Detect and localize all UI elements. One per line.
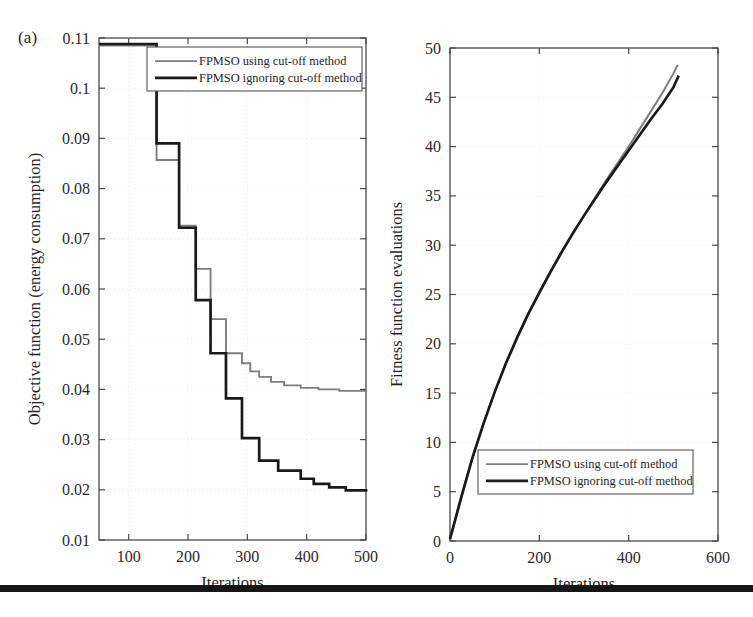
bottom-rule-divider <box>0 585 753 592</box>
y-tick-label: 40 <box>425 138 441 155</box>
x-tick-label: 300 <box>235 548 259 565</box>
y-tick-label: 10 <box>425 434 441 451</box>
y-tick-label: 0.01 <box>62 532 90 549</box>
x-tick-label: 200 <box>176 548 200 565</box>
y-axis-title: Fitness function evaluations <box>387 202 406 387</box>
x-tick-label: 400 <box>617 549 641 566</box>
y-tick-label: 45 <box>425 89 441 106</box>
y-tick-label: 0 <box>433 533 441 550</box>
y-tick-label: 0.06 <box>62 281 90 298</box>
legend-item-using-cutoff-label: FPMSO using cut-off method <box>199 54 347 68</box>
y-tick-label: 0.03 <box>62 431 90 448</box>
y-tick-label: 30 <box>425 237 441 254</box>
x-tick-label: 200 <box>527 549 551 566</box>
y-tick-label: 0.07 <box>62 230 90 247</box>
x-tick-label: 0 <box>446 549 454 566</box>
figure-container: (a) 0.010.020.030.040.050.060.070.080.09… <box>0 0 753 617</box>
y-tick-label: 5 <box>433 483 441 500</box>
y-tick-label: 15 <box>425 385 441 402</box>
y-tick-label: 35 <box>425 187 441 204</box>
legend: FPMSO using cut-off methodFPMSO ignoring… <box>147 47 362 91</box>
y-tick-label: 0.08 <box>62 180 90 197</box>
legend: FPMSO using cut-off methodFPMSO ignoring… <box>478 450 693 494</box>
y-tick-label: 0.1 <box>70 80 90 97</box>
y-tick-label: 0.04 <box>62 381 90 398</box>
x-tick-label: 100 <box>117 548 141 565</box>
objective-function-chart: 0.010.020.030.040.050.060.070.080.090.10… <box>0 0 400 600</box>
x-tick-label: 500 <box>354 548 378 565</box>
fitness-function-evaluations-chart: 051015202530354045500200400600Iterations… <box>380 0 753 600</box>
legend-item-ignoring-cutoff-label: FPMSO ignoring cut-off method <box>199 71 362 85</box>
y-tick-label: 0.11 <box>63 30 90 47</box>
y-tick-label: 20 <box>425 335 441 352</box>
y-axis-title: Objective function (energy consumption) <box>25 153 44 425</box>
y-tick-label: 0.09 <box>62 130 90 147</box>
y-tick-label: 0.02 <box>62 481 90 498</box>
y-tick-label: 50 <box>425 40 441 57</box>
x-tick-label: 400 <box>295 548 319 565</box>
series-line-ignoring-cutoff <box>99 44 366 492</box>
legend-item-ignoring-cutoff-label: FPMSO ignoring cut-off method <box>530 474 693 488</box>
y-tick-label: 25 <box>425 286 441 303</box>
x-tick-label: 600 <box>706 549 730 566</box>
legend-item-using-cutoff-label: FPMSO using cut-off method <box>530 457 678 471</box>
y-tick-label: 0.05 <box>62 331 90 348</box>
